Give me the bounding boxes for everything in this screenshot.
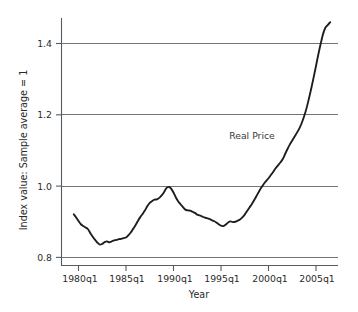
x-tick-label-2000q1: 2000q1	[252, 273, 288, 284]
x-tick-label-1985q1: 1985q1	[109, 273, 145, 284]
y-tick-label-1-4: 1.4	[37, 38, 52, 49]
line-chart-svg: 1.4 1.2 1.0 0.8 1980q1 1985q1 1990q1 199…	[0, 0, 358, 312]
y-axis-title: Index value: Sample average = 1	[18, 70, 29, 231]
x-tick-label-1995q1: 1995q1	[204, 273, 240, 284]
x-tick-label-1980q1: 1980q1	[62, 273, 98, 284]
x-axis-title: Year	[188, 289, 209, 300]
chart-figure: 1.4 1.2 1.0 0.8 1980q1 1985q1 1990q1 199…	[0, 0, 358, 312]
x-tick-label-1990q1: 1990q1	[157, 273, 193, 284]
series-annotation-real-price: Real Price	[229, 130, 275, 141]
x-tick-label-2005q1: 2005q1	[299, 273, 335, 284]
y-tick-label-1-0: 1.0	[37, 181, 52, 192]
y-tick-label-0-8: 0.8	[37, 252, 52, 263]
y-tick-label-1-2: 1.2	[37, 109, 52, 120]
